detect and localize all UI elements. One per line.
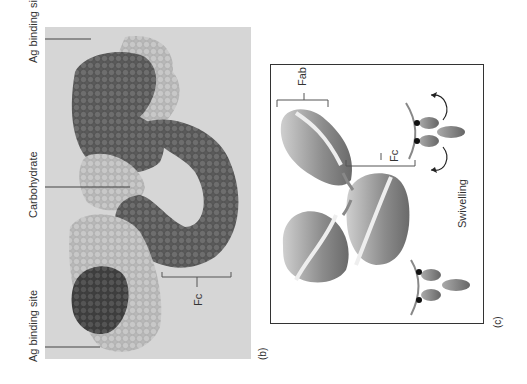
swivel-arrow-bottom bbox=[431, 147, 447, 170]
fab-bracket bbox=[277, 100, 328, 107]
fab-lobe-top bbox=[281, 109, 352, 185]
swivel-arrow-top bbox=[431, 95, 447, 120]
label-ag-binding-site-top: Ag binding site bbox=[27, 0, 39, 63]
label-carbohydrate: Carbohydrate bbox=[27, 151, 39, 218]
panel-label-c: (c) bbox=[492, 316, 503, 328]
label-swivelling: Swivelling bbox=[456, 179, 468, 228]
label-ag-binding-site-bottom: Ag binding site bbox=[27, 290, 39, 362]
space-filling-molecule-art bbox=[45, 27, 251, 359]
fc-lobe bbox=[346, 173, 409, 265]
fc-bracket-c bbox=[346, 160, 415, 166]
antibody-schematic-panel bbox=[270, 64, 484, 324]
fc-bracket-b bbox=[162, 272, 231, 277]
label-fc-b: Fc bbox=[192, 294, 204, 306]
antibody-space-filling-model bbox=[45, 27, 251, 359]
antibody-schematic-art bbox=[271, 65, 485, 325]
label-fc-c: Fc bbox=[388, 150, 400, 162]
antigen-surface-curve-bottom bbox=[411, 260, 419, 315]
panel-label-b: (b) bbox=[257, 348, 268, 360]
antigen-surface-curve-top bbox=[406, 103, 415, 159]
label-fab: Fab bbox=[296, 67, 308, 86]
